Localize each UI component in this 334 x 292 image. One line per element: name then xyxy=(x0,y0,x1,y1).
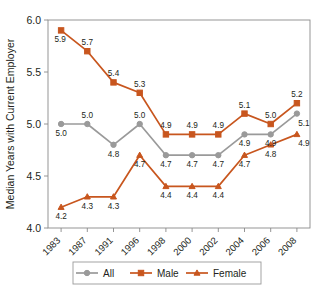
marker-male-2002 xyxy=(216,132,221,137)
data-label-male-1991: 5.4 xyxy=(108,69,120,78)
data-label-female-2000: 4.4 xyxy=(186,191,198,200)
data-label-female-1991: 4.3 xyxy=(108,202,120,211)
y-tick-label: 4.5 xyxy=(26,170,41,182)
x-tick-label-1998: 1998 xyxy=(145,235,168,258)
median-tenure-line-chart: Median Years with Current Employer 4.04.… xyxy=(0,0,334,292)
chart-container: Median Years with Current Employer 4.04.… xyxy=(0,0,334,292)
legend-marker-square xyxy=(138,270,143,275)
x-tick-label-1987: 1987 xyxy=(66,235,89,258)
x-axis-ticks-group: 1983198719911996199820002002200420062008 xyxy=(40,228,299,257)
marker-male-2006 xyxy=(268,121,273,126)
marker-male-2008 xyxy=(294,101,299,106)
marker-male-1987 xyxy=(85,49,90,54)
marker-all-1996 xyxy=(137,121,142,126)
marker-all-2004 xyxy=(242,132,247,137)
x-tick-label-2006: 2006 xyxy=(249,235,272,258)
y-axis-title: Median Years with Current Employer xyxy=(4,38,16,209)
data-label-all-1998: 4.7 xyxy=(160,160,172,169)
data-label-all-1991: 4.8 xyxy=(108,150,120,159)
x-tick-label-2008: 2008 xyxy=(276,235,299,258)
marker-all-2006 xyxy=(268,132,273,137)
series-group xyxy=(58,28,300,210)
data-label-male-1996: 5.3 xyxy=(134,80,146,89)
data-label-male-2008: 5.2 xyxy=(291,90,303,99)
data-label-female-2004: 4.7 xyxy=(239,160,251,169)
y-tick-label: 4.0 xyxy=(26,222,41,234)
y-tick-label: 5.0 xyxy=(26,118,41,130)
marker-all-1987 xyxy=(85,121,90,126)
data-label-male-2006: 5.0 xyxy=(265,111,277,120)
legend-marker-circle xyxy=(84,270,89,275)
data-label-all-2004: 4.9 xyxy=(239,139,251,148)
data-label-all-2000: 4.7 xyxy=(186,160,198,169)
data-label-all-1996: 5.0 xyxy=(134,111,146,120)
data-label-male-1987: 5.7 xyxy=(82,38,94,47)
series-male xyxy=(58,28,299,137)
x-tick-label-1991: 1991 xyxy=(92,235,115,258)
data-label-female-1996: 4.7 xyxy=(134,160,146,169)
marker-all-1998 xyxy=(163,153,168,158)
legend-label-female: Female xyxy=(213,268,247,279)
marker-all-2000 xyxy=(189,153,194,158)
data-label-all-2002: 4.7 xyxy=(213,160,225,169)
marker-male-1998 xyxy=(163,132,168,137)
legend-label-all: All xyxy=(103,268,114,279)
series-line-male xyxy=(61,30,297,134)
data-label-male-2004: 5.1 xyxy=(239,101,251,110)
series-line-female xyxy=(61,134,297,207)
data-label-female-1998: 4.4 xyxy=(160,191,172,200)
marker-all-1991 xyxy=(111,142,116,147)
marker-female-1996 xyxy=(137,152,143,157)
data-label-male-2000: 4.9 xyxy=(186,121,198,130)
y-tick-label: 5.5 xyxy=(26,66,41,78)
y-axis-title-group: Median Years with Current Employer xyxy=(4,38,16,209)
marker-all-1983 xyxy=(58,121,63,126)
y-axis-ticks-group: 4.04.55.05.56.0 xyxy=(26,14,48,234)
x-tick-label-2000: 2000 xyxy=(171,235,194,258)
marker-male-1991 xyxy=(111,80,116,85)
data-label-all-1987: 5.0 xyxy=(82,111,94,120)
data-label-male-1983: 5.9 xyxy=(54,35,66,44)
x-tick-label-1996: 1996 xyxy=(118,235,141,258)
marker-all-2008 xyxy=(294,111,299,116)
data-label-all-2008: 5.1 xyxy=(298,119,310,128)
legend-label-male: Male xyxy=(157,268,179,279)
data-label-all-1983: 5.0 xyxy=(55,129,67,138)
x-tick-label-1983: 1983 xyxy=(40,235,63,258)
data-label-male-2002: 4.9 xyxy=(213,121,225,130)
data-label-female-1983: 4.2 xyxy=(55,212,67,221)
data-label-female-1987: 4.3 xyxy=(82,202,94,211)
marker-all-2002 xyxy=(216,153,221,158)
series-female xyxy=(58,131,300,209)
x-tick-label-2002: 2002 xyxy=(197,235,220,258)
y-tick-label: 6.0 xyxy=(26,14,41,26)
marker-male-1983 xyxy=(58,28,63,33)
chart-legend[interactable]: AllMaleFemale xyxy=(73,262,261,284)
data-label-female-2002: 4.4 xyxy=(213,191,225,200)
marker-male-1996 xyxy=(137,90,142,95)
marker-female-2008 xyxy=(294,131,300,136)
data-label-female-2008: 4.9 xyxy=(298,139,310,148)
marker-male-2004 xyxy=(242,111,247,116)
marker-male-2000 xyxy=(189,132,194,137)
data-label-all-2006: 4.9 xyxy=(265,139,277,148)
x-tick-label-2004: 2004 xyxy=(223,235,246,258)
data-label-female-2006: 4.8 xyxy=(265,150,277,159)
data-label-male-1998: 4.9 xyxy=(160,121,172,130)
